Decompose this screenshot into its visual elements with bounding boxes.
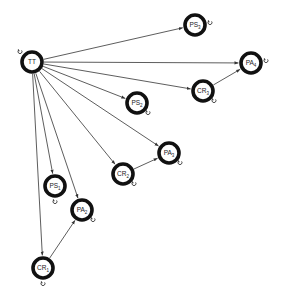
self-loop-arrow-icon xyxy=(178,160,179,162)
self-loop-arrow-icon xyxy=(208,20,209,22)
edge-tt-to-cr1 xyxy=(33,74,43,256)
self-loop-arrow-icon xyxy=(41,281,42,283)
node-cr3[interactable]: CR3 xyxy=(193,81,216,103)
self-loop-arrow-icon xyxy=(132,181,133,183)
node-pa3[interactable]: PA3 xyxy=(159,143,182,165)
self-loop-arrow-icon xyxy=(91,217,92,219)
node-pa4[interactable]: PA4 xyxy=(241,53,268,73)
edge-cr2-to-pa3 xyxy=(134,158,158,169)
nodes-layer: TTPS3PA4CR3PS2PA3CR2PS1PA2CR1 xyxy=(18,15,268,286)
edge-cr3-to-pa4 xyxy=(213,69,240,85)
node-cr1[interactable]: CR1 xyxy=(33,258,53,286)
self-loop-arrow-icon xyxy=(212,98,213,100)
node-pa2[interactable]: PA2 xyxy=(72,200,95,222)
self-loop-arrow-icon xyxy=(146,110,147,112)
edges-layer xyxy=(33,28,241,258)
node-ps2[interactable]: PS2 xyxy=(127,93,150,115)
edge-tt-to-ps3 xyxy=(44,28,183,60)
node-cr2[interactable]: CR2 xyxy=(113,164,136,186)
edge-cr1-to-pa2 xyxy=(50,220,75,258)
self-loop-arrow-icon xyxy=(18,49,19,51)
node-ps1[interactable]: PS1 xyxy=(45,176,65,204)
edge-tt-to-cr3 xyxy=(44,64,191,89)
node-tt[interactable]: TT xyxy=(18,49,42,72)
edge-tt-to-pa4 xyxy=(44,62,239,63)
graph-canvas: TTPS3PA4CR3PS2PA3CR2PS1PA2CR1 xyxy=(0,0,287,302)
self-loop-arrow-icon xyxy=(264,58,265,60)
node-ps3[interactable]: PS3 xyxy=(185,15,212,35)
self-loop-arrow-icon xyxy=(53,199,54,201)
node-label: TT xyxy=(28,58,36,65)
